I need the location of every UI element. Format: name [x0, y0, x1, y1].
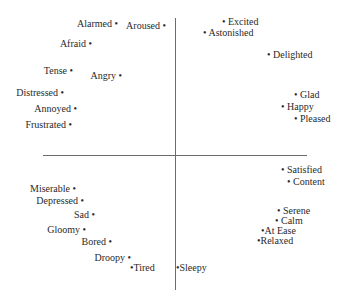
label-happy: • Happy: [281, 101, 314, 113]
label-depressed: Depressed •: [36, 195, 84, 207]
vertical-axis-line: [175, 18, 176, 290]
label-miserable: Miserable •: [30, 183, 76, 195]
label-gloomy: Gloomy •: [47, 224, 86, 236]
horizontal-axis-line: [43, 155, 307, 156]
label-aroused: Aroused •: [126, 20, 166, 32]
label-angry: Angry •: [90, 70, 122, 82]
affect-circumplex-diagram: Alarmed • Aroused • Afraid • Tense • Ang…: [0, 0, 344, 299]
label-sleepy: •Sleepy: [176, 262, 207, 274]
label-alarmed: Alarmed •: [77, 18, 118, 30]
label-sad: Sad •: [74, 209, 95, 221]
label-relaxed: •Relaxed: [257, 235, 293, 247]
label-distressed: Distressed •: [16, 87, 64, 99]
label-satisfied: • Satisfied: [281, 164, 322, 176]
label-pleased: • Pleased: [294, 113, 331, 125]
label-frustrated: Frustrated •: [25, 119, 72, 131]
label-delighted: • Delighted: [267, 49, 312, 61]
label-droopy: Droopy •: [94, 252, 131, 264]
label-tense: Tense •: [44, 65, 73, 77]
label-tired: •Tired: [130, 262, 155, 274]
label-afraid: Afraid •: [60, 38, 92, 50]
label-bored: Bored •: [82, 236, 112, 248]
label-astonished: • Astonished: [203, 27, 253, 39]
label-content: • Content: [287, 176, 325, 188]
label-annoyed: Annoyed •: [34, 103, 77, 115]
label-glad: • Glad: [294, 89, 319, 101]
